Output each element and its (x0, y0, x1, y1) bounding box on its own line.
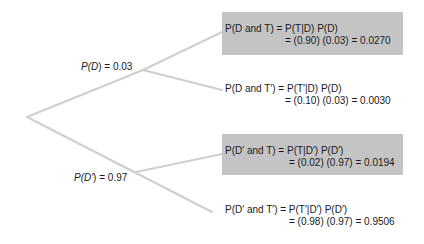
branch-root-to-Dprime (27, 117, 212, 212)
equation-line2: = (0.10) (0.03) = 0.0030 (225, 95, 391, 107)
branch-root-to-D (27, 70, 143, 117)
equation-line1: P(D and T′) = P(T′|D) P(D) (225, 83, 341, 94)
branch-D-to-T (143, 32, 222, 70)
branch-D-to-Tprime (143, 70, 222, 90)
outcome-Dprime-and-Tprime: P(D′ and T′) = P(T′|D′) P(D′) = (0.98) (… (225, 204, 395, 228)
branch-label-D: P(D) = 0.03 (81, 61, 132, 73)
equation-line1: P(D and T) = P(T|D) P(D) (225, 23, 338, 34)
branch-label-Dprime: P(D′) = 0.97 (74, 172, 127, 184)
equation-line2: = (0.02) (0.97) = 0.0194 (225, 157, 395, 169)
equation-line2: = (0.90) (0.03) = 0.0270 (225, 35, 391, 47)
outcome-D-and-Tprime: P(D and T′) = P(T′|D) P(D) = (0.10) (0.0… (225, 83, 391, 107)
equation-line1: P(D′ and T) = P(T|D′) P(D′) (225, 145, 343, 156)
equation-line1: P(D′ and T′) = P(T′|D′) P(D′) (225, 204, 347, 215)
branch-Dprime-to-T (136, 154, 222, 172)
outcome-Dprime-and-T: P(D′ and T) = P(T|D′) P(D′) = (0.02) (0.… (225, 145, 395, 169)
outcome-D-and-T: P(D and T) = P(T|D) P(D) = (0.90) (0.03)… (225, 23, 391, 47)
equation-line2: = (0.98) (0.97) = 0.9506 (225, 216, 395, 228)
